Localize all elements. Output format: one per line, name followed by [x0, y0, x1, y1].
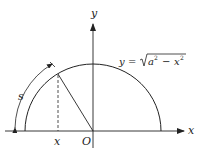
radius-line: [58, 74, 93, 131]
y-axis-label: y: [90, 7, 98, 20]
arc-length-label: s: [18, 90, 24, 103]
x-axis-label: x: [188, 124, 195, 137]
svg-text:2: 2: [154, 54, 158, 61]
origin-label: O: [82, 135, 91, 148]
equation-label: y = a 2 − x 2: [118, 54, 186, 67]
svg-text:y: y: [118, 56, 125, 67]
svg-text:2: 2: [180, 54, 184, 61]
semicircle-diagram: y x O x s y = a 2 − x 2: [0, 0, 202, 155]
x-point-label: x: [54, 135, 61, 148]
svg-text:=: =: [128, 56, 136, 67]
svg-text:−: −: [162, 56, 170, 67]
